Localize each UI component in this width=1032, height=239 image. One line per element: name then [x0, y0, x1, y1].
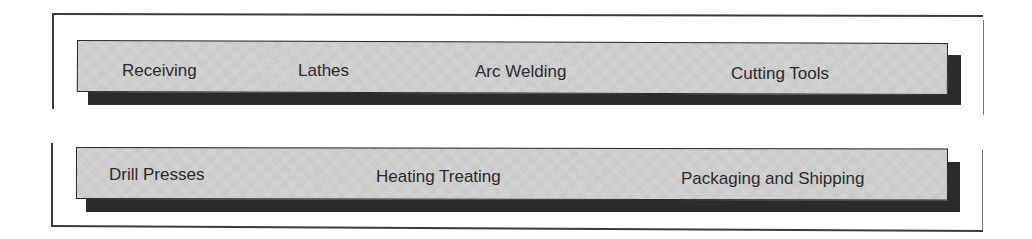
frame-right-border-upper [983, 20, 984, 115]
frame-left-border-upper [52, 13, 54, 109]
department-label-cutting-tools: Cutting Tools [731, 65, 829, 82]
department-label-heating-treating: Heating Treating [376, 168, 501, 185]
frame-left-border-lower [51, 143, 53, 226]
department-label-packaging-and-shipping: Packaging and Shipping [681, 170, 864, 187]
department-label-arc-welding: Arc Welding [475, 63, 566, 80]
frame-right-border-lower [982, 150, 983, 230]
department-label-lathes: Lathes [298, 62, 349, 79]
department-label-drill-presses: Drill Presses [109, 166, 204, 183]
department-label-receiving: Receiving [122, 62, 197, 79]
frame-top-border [52, 13, 983, 16]
frame-bottom-border [51, 225, 983, 231]
